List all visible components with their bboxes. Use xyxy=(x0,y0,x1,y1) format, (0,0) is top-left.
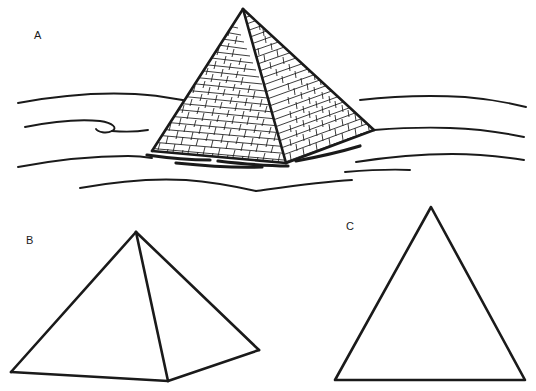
panel-label-c: C xyxy=(346,221,354,232)
panel-label-a: A xyxy=(34,30,42,41)
dune-line-6 xyxy=(18,156,152,167)
dune-line-5 xyxy=(374,128,524,137)
line-drawing-svg xyxy=(0,0,536,391)
dune-line-8 xyxy=(80,179,256,191)
dune-line-10 xyxy=(345,170,410,172)
triangle-c-shape xyxy=(335,207,525,380)
illustration-canvas: A B C xyxy=(0,0,536,391)
dune-line-1 xyxy=(18,93,200,103)
triangle-c xyxy=(335,207,525,380)
panel-label-b: B xyxy=(26,235,34,246)
pyramid-b xyxy=(11,232,259,381)
dune-line-7 xyxy=(356,154,524,162)
dune-line-9 xyxy=(256,180,352,191)
dune-line-3 xyxy=(25,120,115,132)
dune-line-4 xyxy=(112,130,148,132)
dune-line-2 xyxy=(360,96,526,107)
